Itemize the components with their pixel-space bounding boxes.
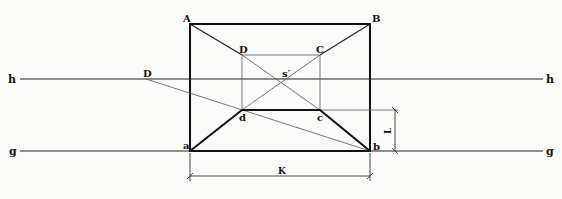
label-c: c [317,112,323,123]
construction-lines [146,55,398,151]
label-C: C [316,44,324,55]
horizon-label-right: h [546,73,554,86]
label-b: b [373,141,380,152]
dimension-l-label: L [383,127,393,134]
dimension-k-label: K [278,166,287,176]
floor-edges [190,110,370,151]
label-distance-point: D [143,68,152,79]
horizon-line: h h [8,73,554,86]
horizon-label-left: h [8,73,16,86]
label-B: B [372,13,380,24]
outer-rectangle [190,24,370,151]
label-vanishing-point: s′ [282,68,291,79]
dimension-l: L [383,107,398,154]
dimension-k: K [187,153,373,181]
label-A: A [182,13,191,24]
perspective-diagram: h h g g K [0,0,562,199]
label-D-inner: D [239,44,248,55]
label-a: a [183,140,190,151]
ground-label-right: g [546,145,554,158]
label-d: d [239,112,246,123]
ground-label-left: g [9,145,17,158]
top-diagonals [190,24,370,55]
